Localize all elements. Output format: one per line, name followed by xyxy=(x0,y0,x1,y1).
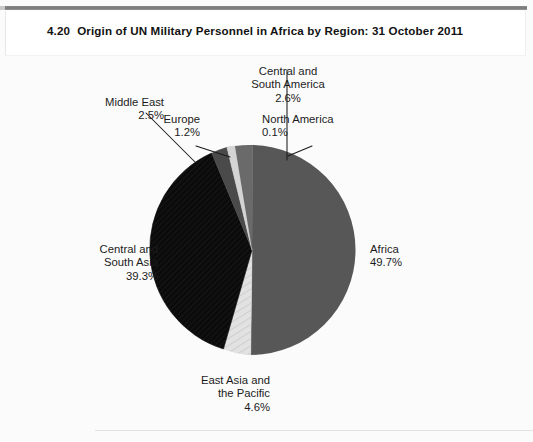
label-central-and-south-asia: Central and South Asia 39.3% xyxy=(42,243,158,283)
figure-title-text: Origin of UN Military Personnel in Afric… xyxy=(77,24,463,37)
label-central-and-south-america: Central and South America 2.6% xyxy=(228,65,348,105)
figure-header-card: 4.20Origin of UN Military Personnel in A… xyxy=(5,11,526,56)
pie-chart: Central and South America 2.6% Middle Ea… xyxy=(0,56,533,416)
leader-line-north-america xyxy=(288,146,312,156)
figure-page: 4.20Origin of UN Military Personnel in A… xyxy=(0,0,533,442)
label-north-america: North America 0.1% xyxy=(262,113,378,140)
bottom-divider-rule xyxy=(95,430,533,431)
top-divider-rule xyxy=(5,6,527,10)
label-europe: Europe 1.2% xyxy=(118,113,200,140)
figure-number: 4.20 xyxy=(47,24,70,37)
page-title: 4.20Origin of UN Military Personnel in A… xyxy=(47,24,463,37)
label-east-asia-and-the-pacific: East Asia and the Pacific 4.6% xyxy=(120,374,270,414)
label-africa: Africa 49.7% xyxy=(370,243,466,270)
slice-africa xyxy=(251,145,356,355)
